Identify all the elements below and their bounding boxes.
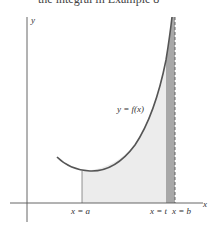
curve-label: y = f(x) xyxy=(117,104,144,114)
x-axis-label: x xyxy=(203,199,207,209)
x-equals-a-label: x = a xyxy=(71,206,90,216)
x-equals-b-label: x = b xyxy=(172,206,191,216)
shaded-strip-t-to-b xyxy=(166,17,175,203)
integral-diagram xyxy=(0,0,219,232)
x-equals-t-label: x = t xyxy=(150,206,167,216)
shaded-area-a-to-t xyxy=(82,60,166,203)
y-axis-label: y xyxy=(31,15,35,25)
